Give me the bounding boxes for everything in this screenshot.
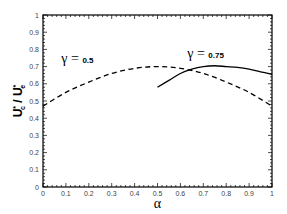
y-tick-label: 0.7: [29, 63, 39, 70]
x-tick-label: 0.1: [61, 190, 71, 197]
plot-frame: [43, 15, 272, 187]
gamma-symbol: γ =: [60, 51, 82, 66]
y-label-part: e: [19, 85, 26, 89]
series-annotation: γ = 0.75: [186, 46, 224, 61]
plot-border: [43, 15, 272, 187]
y-label-part: /: [11, 96, 25, 106]
series-line-gamma-0.75: [158, 66, 273, 88]
chart: 00.10.20.30.40.50.60.70.80.9100.10.20.30…: [0, 0, 287, 214]
annotation-value: 0.5: [82, 56, 94, 65]
x-tick-label: 0.3: [107, 190, 117, 197]
x-tick-label: 0: [41, 190, 45, 197]
x-tick-label: 0.4: [130, 190, 140, 197]
annotation-value: 0.75: [208, 51, 224, 60]
y-tick-label: 0.5: [29, 98, 39, 105]
y-tick-label: 0.8: [29, 46, 39, 53]
y-tick-label: 0.9: [29, 29, 39, 36]
y-tick-label: 0.3: [29, 132, 39, 139]
tick-labels: 00.10.20.30.40.50.60.70.80.9100.10.20.30…: [29, 12, 274, 198]
y-tick-label: 1: [35, 12, 39, 19]
y-tick-label: 0.4: [29, 115, 39, 122]
series-annotation: γ = 0.5: [60, 51, 94, 66]
series-lines: [43, 66, 272, 106]
annotations: γ = 0.5γ = 0.75: [60, 46, 224, 66]
x-tick-label: 1: [270, 190, 274, 197]
x-axis-label: α: [154, 196, 162, 211]
y-tick-label: 0.2: [29, 149, 39, 156]
x-tick-label: 0.2: [84, 190, 94, 197]
gamma-symbol: γ =: [186, 46, 208, 61]
y-tick-label: 0.1: [29, 166, 39, 173]
y-label-part: *: [12, 84, 19, 87]
series-line-gamma-0.5: [43, 67, 272, 107]
x-tick-label: 0.8: [221, 190, 231, 197]
y-axis-label: U*c / U*e: [11, 84, 26, 117]
x-tick-label: 0.6: [176, 190, 186, 197]
y-axis-label-text: U*c / U*e: [11, 84, 26, 117]
x-tick-label: 0.7: [198, 190, 208, 197]
y-tick-label: 0.6: [29, 80, 39, 87]
y-tick-label: 0: [35, 184, 39, 191]
x-tick-label: 0.9: [244, 190, 254, 197]
axis-ticks: [43, 15, 272, 187]
